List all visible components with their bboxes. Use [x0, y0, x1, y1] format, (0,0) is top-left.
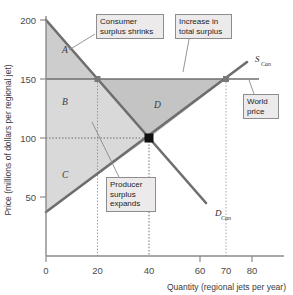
x-tick-label-80: 80 — [247, 265, 258, 276]
x-tick-label-20: 20 — [92, 265, 103, 276]
supply-curve-label: S — [255, 54, 260, 64]
marker-supply-at-world-price — [223, 76, 229, 82]
region-d-label: D — [153, 100, 161, 110]
x-tick-label-40: 40 — [144, 265, 155, 276]
y-tick-label-100: 100 — [20, 133, 36, 144]
region-b-label: B — [62, 97, 68, 107]
marker-demand-at-world-price — [95, 76, 101, 82]
callout-world-price: World price — [243, 94, 279, 119]
y-tick-label-50: 50 — [25, 192, 36, 203]
y-tick-label-200: 200 — [20, 15, 36, 26]
leader-consumer — [69, 34, 95, 50]
y-axis-title: Price (millions of dollars per regional … — [3, 64, 13, 215]
region-c-label: C — [62, 170, 69, 180]
marker-domestic-equilibrium — [145, 134, 154, 143]
callout-consumer-surplus-shrinks: Consumer surplus shrinks — [96, 14, 164, 39]
leader-world — [249, 80, 254, 94]
y-tick-label-150: 150 — [20, 74, 36, 85]
x-tick-label-0: 0 — [43, 265, 48, 276]
callout-producer-surplus-expands: Producer surplus expands — [106, 177, 156, 212]
x-axis-title: Quantity (regional jets per year) — [167, 282, 286, 292]
region-a-label: A — [61, 45, 68, 55]
chart-canvas: 200 150 100 50 0 20 40 60 70 80 Quantity… — [0, 0, 293, 295]
supply-curve-sublabel: Can — [261, 61, 271, 67]
x-tick-label-60: 60 — [195, 265, 206, 276]
x-tick-label-70: 70 — [221, 265, 232, 276]
demand-curve-sublabel: Can — [221, 215, 231, 221]
callout-increase-in-total-surplus: Increase in total surplus — [175, 14, 232, 39]
leader-increase — [183, 34, 190, 72]
supply-demand-chart: 200 150 100 50 0 20 40 60 70 80 Quantity… — [0, 0, 293, 295]
